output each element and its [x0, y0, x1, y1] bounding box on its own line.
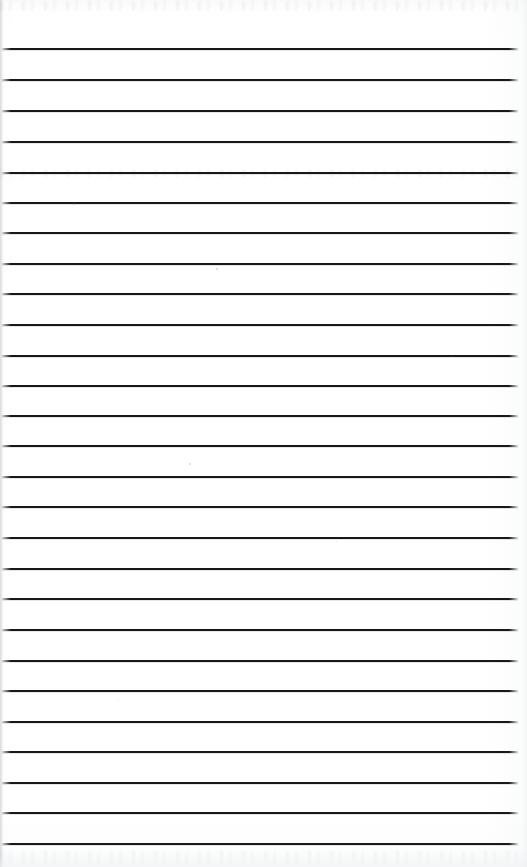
rule-line — [2, 751, 518, 753]
rule-line — [2, 843, 518, 845]
rule-line — [2, 141, 518, 143]
scan-speck — [216, 268, 218, 270]
scan-speck — [189, 463, 191, 465]
rule-line — [2, 721, 518, 723]
ghost-bleed-top-artifact — [0, 1, 527, 11]
rule-line — [2, 79, 518, 81]
rule-line — [2, 48, 518, 50]
rule-line — [2, 172, 518, 174]
rule-line — [2, 537, 518, 539]
rule-line — [2, 445, 518, 447]
scan-edge-left — [0, 0, 3, 867]
rule-line — [2, 385, 518, 387]
ghost-bleed-footer-artifact — [0, 851, 527, 863]
rule-line — [2, 355, 518, 357]
rule-line — [2, 202, 518, 204]
scan-speck — [336, 541, 337, 542]
rule-line — [2, 568, 518, 570]
rule-line — [2, 782, 518, 784]
scan-edge-bottom — [0, 849, 527, 867]
rule-line — [2, 110, 518, 112]
rule-line — [2, 506, 518, 508]
rule-line — [2, 598, 518, 600]
rule-line — [2, 812, 518, 814]
rule-line — [2, 232, 518, 234]
scan-speck — [118, 700, 119, 701]
paper-surface — [0, 0, 527, 867]
rule-line — [2, 690, 518, 692]
scanned-page — [0, 0, 527, 867]
rule-line — [2, 263, 518, 265]
rule-line — [2, 415, 518, 417]
rule-line — [2, 629, 518, 631]
rule-line — [2, 476, 518, 478]
rule-line — [2, 293, 518, 295]
rule-line — [2, 324, 518, 326]
rule-line — [2, 660, 518, 662]
